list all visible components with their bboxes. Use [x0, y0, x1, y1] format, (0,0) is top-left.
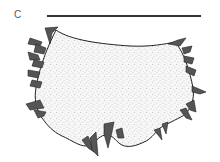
- specimen-illustration: [0, 0, 220, 162]
- specimen-body: [35, 30, 193, 146]
